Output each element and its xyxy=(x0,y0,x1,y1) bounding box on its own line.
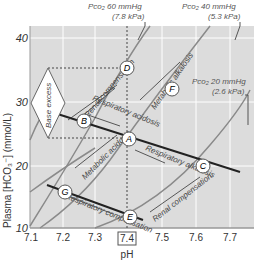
isobar-label-40-line2: (5.3 kPa) xyxy=(208,12,241,21)
svg-text:G: G xyxy=(61,187,68,197)
svg-text:7.3: 7.3 xyxy=(88,232,102,243)
x-axis-label: pH xyxy=(121,249,134,260)
svg-text:C: C xyxy=(200,161,207,171)
x-axis-ticks: 7.1 7.2 7.3 7.4 7.5 7.6 7.7 xyxy=(24,232,237,245)
svg-text:7.5: 7.5 xyxy=(155,232,169,243)
svg-text:7.6: 7.6 xyxy=(189,232,203,243)
isobar-label-60-line1: Pco₂ 60 mmHg xyxy=(88,2,142,11)
svg-text:20: 20 xyxy=(15,160,29,172)
point-C: C xyxy=(196,159,210,173)
svg-text:40: 40 xyxy=(16,32,29,44)
svg-text:F: F xyxy=(169,84,175,94)
isobar-label-20-line2: (2.6 kPa) xyxy=(212,87,245,96)
point-D: D xyxy=(120,61,134,75)
svg-text:B: B xyxy=(81,116,87,126)
point-G: G xyxy=(58,185,72,199)
base-excess-label: Base excess xyxy=(44,83,53,128)
point-E: E xyxy=(123,210,137,224)
svg-text:7.4: 7.4 xyxy=(120,233,134,244)
isobar-label-60-line2: (7.8 kPa) xyxy=(112,12,145,21)
point-A: A xyxy=(122,132,136,146)
svg-text:E: E xyxy=(127,212,134,222)
svg-text:7.2: 7.2 xyxy=(56,232,70,243)
isobar-label-20-line1: Pco₂ 20 mmHg xyxy=(192,77,246,86)
svg-text:7.7: 7.7 xyxy=(223,232,237,243)
y-axis-label: Plasma [HCO₃⁻] (mmol/L) xyxy=(2,113,13,228)
acid-base-diagram: Renal compensation Respiratory acidosis … xyxy=(0,0,261,263)
point-F: F xyxy=(165,82,179,96)
y-axis-ticks: 40 30 20 10 xyxy=(15,32,29,234)
svg-text:7.1: 7.1 xyxy=(24,232,38,243)
svg-text:D: D xyxy=(124,63,131,73)
point-B: B xyxy=(77,114,91,128)
isobar-label-40-line1: Pco₂ 40 mmHg xyxy=(182,2,236,11)
svg-text:A: A xyxy=(125,134,132,144)
svg-text:30: 30 xyxy=(16,96,29,108)
